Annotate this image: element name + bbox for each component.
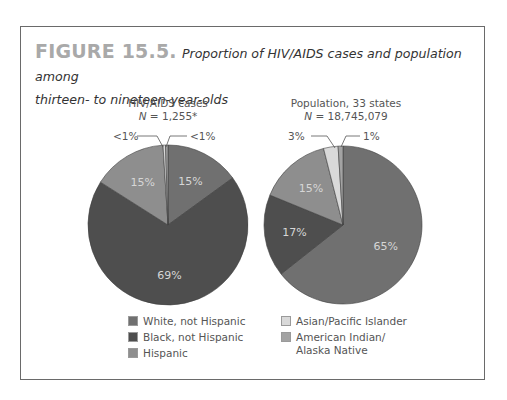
legend-label: White, not Hispanic xyxy=(143,315,245,328)
legend-label-line2: Alaska Native xyxy=(296,344,368,356)
slice-percent-label: 17% xyxy=(282,226,306,239)
slice-percent-label: 15% xyxy=(178,175,202,188)
swatch-aian-icon xyxy=(281,332,291,342)
legend-right-column: Asian/Pacific Islander American Indian/A… xyxy=(281,315,407,360)
legend-label: American Indian/Alaska Native xyxy=(296,331,385,357)
slice-percent-label: 15% xyxy=(131,176,155,189)
legend-item-black: Black, not Hispanic xyxy=(128,331,245,344)
slice-percent-label: 69% xyxy=(157,269,181,282)
legend-label: Black, not Hispanic xyxy=(143,331,243,344)
pie-chart-population: 65%17%15% xyxy=(264,146,422,304)
legend-item-asian: Asian/Pacific Islander xyxy=(281,315,407,328)
legend-left-column: White, not Hispanic Black, not Hispanic … xyxy=(128,315,245,363)
legend-label: Hispanic xyxy=(143,347,188,360)
swatch-hispanic-icon xyxy=(128,348,138,358)
pie-chart-hiv-cases: 15%69%15% xyxy=(88,145,248,305)
legend-item-hispanic: Hispanic xyxy=(128,347,245,360)
slice-percent-label: 15% xyxy=(299,182,323,195)
pie-charts: 15%69%15% 65%17%15% xyxy=(0,0,507,400)
swatch-asian-icon xyxy=(281,316,291,326)
swatch-white-icon xyxy=(128,316,138,326)
slice-percent-label: 65% xyxy=(373,240,397,253)
legend-label: Asian/Pacific Islander xyxy=(296,315,407,328)
swatch-black-icon xyxy=(128,332,138,342)
legend-label-line1: American Indian/ xyxy=(296,331,385,343)
legend-item-white: White, not Hispanic xyxy=(128,315,245,328)
legend-item-aian: American Indian/Alaska Native xyxy=(281,331,407,357)
